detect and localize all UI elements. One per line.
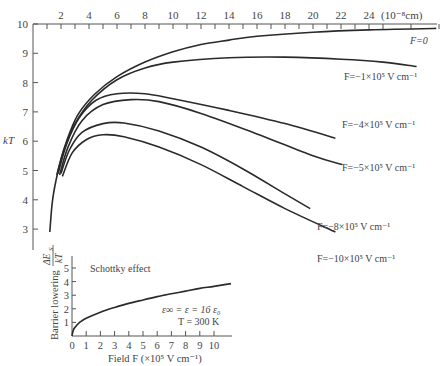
inset-x-tick-label: 7 (169, 340, 174, 351)
inset-y-label-text: Barrier lowering (49, 270, 60, 340)
x-tick-label: 2 (58, 9, 64, 21)
x-unit-label: (10⁻⁸cm) (381, 9, 423, 22)
y-ticks: 345678910 (17, 18, 38, 235)
y-tick-label: 5 (23, 165, 29, 177)
curve-f-5x10-5-v-cm (60, 99, 343, 175)
inset-y-label-subscript: S (47, 247, 55, 251)
inset-x-tick-label: 10 (209, 340, 220, 351)
y-tick-label: 3 (23, 223, 29, 235)
inset-title: Schottky effect (90, 263, 151, 274)
chart-figure: 24681012141618202224 345678910 (10⁻⁸cm) … (0, 0, 448, 366)
inset-x-tick-label: 4 (126, 340, 132, 351)
y-tick-label: 9 (23, 47, 29, 59)
inset-x-ticks: 012345678910 (69, 331, 219, 351)
inset-y-ticks: 12345 (64, 263, 76, 328)
curve-f-0 (50, 28, 436, 232)
inset-x-tick-label: 5 (140, 340, 145, 351)
inset-y-tick-label: 5 (64, 263, 69, 274)
x-tick-label: 10 (168, 9, 180, 21)
curve-f-4x10-5-v-cm (58, 93, 335, 173)
curve-label-f0: F=0 (409, 35, 428, 46)
main-plot: 24681012141618202224 345678910 (10⁻⁸cm) … (3, 9, 439, 264)
inset-x-tick-label: 6 (155, 340, 160, 351)
curve-label-f-10: F=−10×10⁵ V cm⁻¹ (317, 253, 395, 264)
inset-y-label-numerator: ΔE (42, 253, 52, 266)
y-tick-label: 8 (23, 77, 29, 89)
curve-label-f-4: F=−4×10⁵ V cm⁻¹ (342, 119, 415, 130)
inset-x-tick-label: 0 (69, 340, 74, 351)
inset-y-tick-label: 3 (64, 290, 69, 301)
y-tick-label: 10 (17, 18, 29, 30)
x-tick-label: 24 (364, 9, 376, 21)
x-tick-label: 8 (142, 9, 148, 21)
inset-annotation-epsilon: ε∞ = ε = 16 ε₀ (162, 304, 221, 315)
inset-y-tick-label: 2 (64, 304, 69, 315)
main-curves (50, 28, 436, 232)
inset-x-tick-label: 8 (183, 340, 188, 351)
x-tick-label: 18 (280, 9, 292, 21)
inset-y-label-denominator: kT (54, 253, 64, 263)
x-tick-label: 14 (224, 9, 236, 21)
curve-label-f-5: F=−5×10⁵ V cm⁻¹ (342, 162, 415, 173)
inset-x-tick-label: 1 (84, 340, 89, 351)
x-tick-label: 16 (252, 9, 264, 21)
inset-y-tick-label: 4 (64, 277, 70, 288)
x-tick-label: 6 (114, 9, 120, 21)
inset-annotation-temperature: T = 300 K (178, 316, 220, 327)
inset-y-tick-label: 1 (64, 317, 69, 328)
y-tick-label: 4 (23, 194, 29, 206)
inset-x-tick-label: 2 (98, 340, 103, 351)
x-tick-label: 22 (336, 9, 347, 21)
inset-x-tick-label: 9 (197, 340, 202, 351)
x-tick-label: 4 (86, 9, 92, 21)
inset-x-tick-label: 3 (112, 340, 117, 351)
x-tick-label: 20 (308, 9, 320, 21)
inset-x-axis-label: Field F (×10⁵ V cm⁻¹) (108, 353, 202, 365)
inset-plot: 012345678910 12345 Schottky effect ε∞ = … (42, 245, 232, 365)
inset-y-axis-label: Barrier lowering ΔE S kT (42, 245, 64, 340)
curve-label-f-1: F=−1×10⁵ V cm⁻¹ (344, 71, 417, 82)
y-tick-label: 7 (23, 106, 29, 118)
x-tick-label: 12 (196, 9, 207, 21)
y-axis-label: kT (3, 134, 15, 146)
curve-label-f-8: F=−8×10⁵ V cm⁻¹ (317, 221, 390, 232)
y-tick-label: 6 (23, 135, 29, 147)
